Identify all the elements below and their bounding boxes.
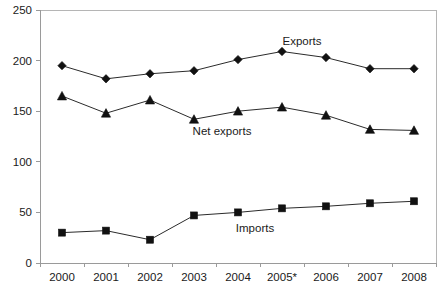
x-tick-label: 2005* <box>267 271 298 283</box>
data-point-marker <box>411 198 418 205</box>
data-point-marker <box>279 205 286 212</box>
x-tick-label: 2003 <box>181 271 207 283</box>
data-point-marker <box>367 200 374 207</box>
x-tick-label: 2004 <box>225 271 251 283</box>
data-point-marker <box>147 236 154 243</box>
x-tick-label: 2002 <box>137 271 163 283</box>
y-tick-label: 200 <box>13 55 32 67</box>
data-point-marker <box>191 212 198 219</box>
chart-container: 050100150200250 200020012002200320042005… <box>0 0 443 296</box>
x-tick-label: 2008 <box>401 271 427 283</box>
y-tick-label: 100 <box>13 156 32 168</box>
data-point-marker <box>235 209 242 216</box>
x-tick-label: 2007 <box>357 271 383 283</box>
series-label-exports: Exports <box>283 35 322 47</box>
data-point-marker <box>323 203 330 210</box>
x-tick-label: 2001 <box>93 271 119 283</box>
series-label-imports: Imports <box>236 222 275 234</box>
y-tick-label: 150 <box>13 105 32 117</box>
x-axis-tick-labels: 200020012002200320042005*200620072008 <box>49 271 427 283</box>
line-chart: 050100150200250 200020012002200320042005… <box>0 0 443 296</box>
y-tick-label: 250 <box>13 4 32 16</box>
y-tick-label: 0 <box>26 257 32 269</box>
x-tick-label: 2000 <box>49 271 75 283</box>
data-point-marker <box>103 227 110 234</box>
y-tick-label: 50 <box>19 206 32 218</box>
chart-background <box>0 0 443 296</box>
series-label-net-exports: Net exports <box>193 125 252 137</box>
data-point-marker <box>59 229 66 236</box>
x-tick-label: 2006 <box>313 271 339 283</box>
